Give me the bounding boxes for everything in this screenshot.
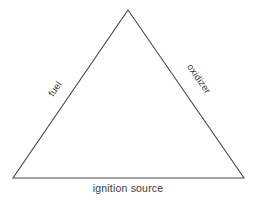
fire-triangle-diagram: fuel oxidizer ignition source bbox=[0, 0, 256, 204]
edge-label-ignition-source: ignition source bbox=[0, 183, 256, 194]
triangle-shape bbox=[0, 0, 256, 204]
